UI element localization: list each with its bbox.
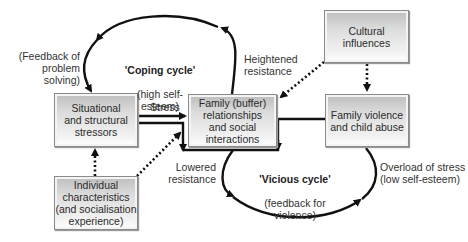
heightened-resistance-label: Heightened resistance xyxy=(244,53,314,77)
family-violence-text: Family violence and child abuse xyxy=(330,109,404,133)
vicious-cycle-label: 'Vicious cycle' (feedback for violence) xyxy=(250,161,340,221)
vicious-cycle-subtitle: (feedback for violence) xyxy=(264,197,325,221)
feedback-arc xyxy=(84,40,97,91)
family-violence-box: Family violence and child abuse xyxy=(325,94,409,147)
coping-cycle-arc-top xyxy=(97,16,218,40)
lowered-resistance-label: Lowered resistance xyxy=(168,161,216,185)
vicious-cycle-arc-left xyxy=(222,150,233,196)
situational-stressors-text: Situational and structural stressors xyxy=(64,102,128,138)
overload-of-stress-label: Overload of stress (low self-esteem) xyxy=(380,161,468,185)
stress-label: Stress xyxy=(150,101,180,113)
feedback-problem-solving-label: (Feedback of problem solving) xyxy=(14,50,80,86)
individual-characteristics-box: Individual characteristics (and socialis… xyxy=(54,176,138,230)
coping-cycle-title: 'Coping cycle' xyxy=(125,64,195,76)
overload-arc xyxy=(362,148,376,199)
family-buffer-text: Family (buffer) relationships and social… xyxy=(199,97,267,145)
cultural-influences-text: Cultural influences xyxy=(343,25,390,49)
coping-cycle-arc xyxy=(222,28,235,94)
individual-characteristics-text: Individual characteristics (and socialis… xyxy=(55,179,136,227)
vicious-cycle-title: 'Vicious cycle' xyxy=(259,173,330,185)
cultural-influences-box: Cultural influences xyxy=(324,10,409,63)
family-buffer-box: Family (buffer) relationships and social… xyxy=(188,94,277,147)
